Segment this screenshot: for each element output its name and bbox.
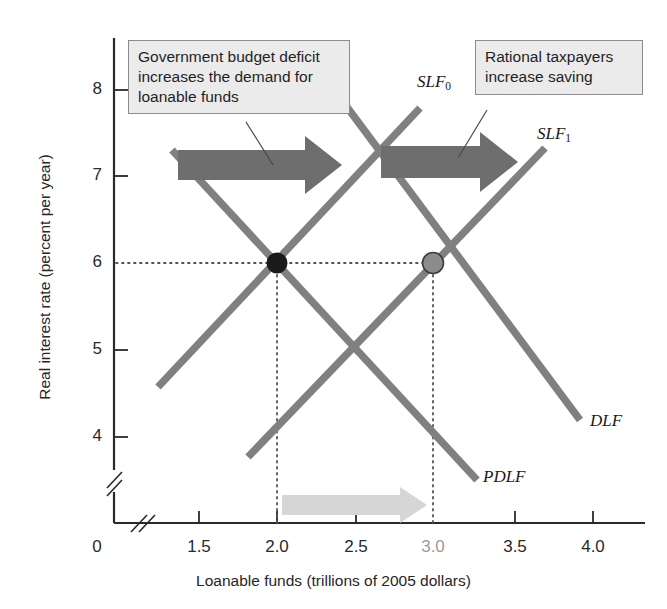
curve-label-dlf: DLF: [590, 411, 622, 431]
chart-canvas: Real interest rate (percent per year) Lo…: [0, 0, 667, 609]
x-tick-label-3-5: 3.5: [490, 537, 540, 557]
curve-label-slf1: SLF1: [537, 124, 571, 144]
x-tick-label-3-0: 3.0: [408, 537, 458, 557]
saving-callout-line-1: Rational taxpayers: [485, 47, 634, 67]
curve-label-slf1-text: SLF: [537, 124, 565, 143]
y-tick-label-4: 4: [72, 426, 102, 446]
initial-equilibrium-dot: [267, 253, 288, 274]
guide-lines: [116, 263, 433, 523]
curve-label-slf1-sub: 1: [565, 132, 571, 144]
y-tick-label-6: 6: [72, 252, 102, 272]
quantity-shift-arrow: [282, 487, 427, 523]
x-tick-label-2-0: 2.0: [252, 537, 302, 557]
curve-slf1: [248, 148, 545, 457]
deficit-callout-line-2: increases the demand for: [138, 67, 341, 87]
curve-label-slf0-sub: 0: [445, 80, 451, 92]
x-tick-label-2-5: 2.5: [331, 537, 381, 557]
curve-slf0: [158, 108, 420, 387]
y-axis-title: Real interest rate (percent per year): [36, 127, 54, 427]
saving-callout-line-2: increase saving: [485, 67, 634, 87]
x-tick-label-4-0: 4.0: [568, 537, 618, 557]
saving-callout: Rational taxpayers increase saving: [475, 40, 643, 95]
curve-label-pdlf: PDLF: [483, 467, 526, 487]
deficit-callout: Government budget deficit increases the …: [128, 40, 350, 114]
origin-label: 0: [85, 537, 109, 557]
curve-label-slf0: SLF0: [417, 72, 451, 92]
curve-label-slf0-text: SLF: [417, 72, 445, 91]
curve-pdlf: [172, 150, 477, 480]
deficit-callout-line-3: loanable funds: [138, 87, 341, 107]
deficit-callout-line-1: Government budget deficit: [138, 47, 341, 67]
y-tick-label-8: 8: [72, 79, 102, 99]
x-axis-title: Loanable funds (trillions of 2005 dollar…: [0, 572, 667, 590]
new-equilibrium-dot: [423, 253, 444, 274]
y-tick-label-5: 5: [72, 339, 102, 359]
y-tick-label-7: 7: [72, 165, 102, 185]
x-tick-label-1-5: 1.5: [174, 537, 224, 557]
